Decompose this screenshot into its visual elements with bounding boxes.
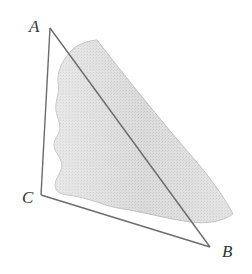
edge-ca <box>41 28 50 195</box>
diagram-canvas <box>0 0 252 274</box>
triangle-diagram: A C B <box>0 0 252 274</box>
vertex-label-a: A <box>29 18 39 35</box>
shaded-region <box>54 40 233 223</box>
vertex-label-b: B <box>222 243 232 260</box>
vertex-label-c: C <box>22 189 33 206</box>
